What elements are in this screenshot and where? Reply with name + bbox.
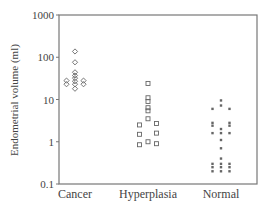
y-axis-title: Endometrial volume (ml)	[8, 44, 21, 156]
dot-marker	[211, 108, 213, 110]
square-marker	[155, 131, 159, 135]
dot-marker	[220, 104, 222, 106]
dot-marker	[211, 122, 213, 124]
dot-marker	[220, 170, 222, 172]
plot-border	[59, 15, 257, 184]
square-marker	[155, 122, 159, 126]
y-tick-label: 0.1	[40, 178, 54, 190]
dot-marker	[228, 122, 230, 124]
dot-marker	[211, 163, 213, 165]
square-marker	[138, 132, 142, 136]
dot-marker	[228, 166, 230, 168]
square-marker	[138, 143, 142, 147]
x-category-label: Hyperplasia	[119, 187, 178, 201]
series-normal	[211, 99, 230, 172]
dot-marker	[211, 166, 213, 168]
dot-marker	[220, 163, 222, 165]
series-cancer	[64, 49, 86, 91]
chart-canvas: Endometrial volume (ml) 10001001010.1 Ca…	[0, 0, 272, 209]
series-hyperplasia	[138, 81, 159, 146]
dot-marker	[211, 170, 213, 172]
y-axis-title-text: Endometrial volume (ml)	[8, 44, 21, 156]
y-axis-ticks: 10001001010.1	[32, 9, 59, 190]
dot-marker	[228, 163, 230, 165]
x-axis-categories: CancerHyperplasiaNormal	[58, 187, 240, 201]
plot-frame	[59, 15, 257, 184]
dot-marker	[220, 132, 222, 134]
square-marker	[146, 140, 150, 144]
diamond-marker	[64, 82, 69, 87]
dot-marker	[211, 132, 213, 134]
dot-marker	[220, 139, 222, 141]
dot-marker	[211, 124, 213, 126]
diamond-marker	[72, 49, 77, 54]
y-tick-label: 10	[43, 94, 55, 106]
diamond-marker	[72, 60, 77, 65]
square-marker	[138, 123, 142, 127]
square-marker	[146, 81, 150, 85]
dot-marker	[220, 128, 222, 130]
dot-marker	[228, 124, 230, 126]
dot-marker	[220, 166, 222, 168]
data-points	[64, 49, 231, 173]
x-category-label: Cancer	[58, 187, 92, 201]
diamond-marker	[81, 82, 86, 87]
square-marker	[146, 117, 150, 121]
diamond-marker	[81, 78, 86, 83]
y-tick-label: 100	[38, 51, 55, 63]
y-tick-label: 1	[49, 136, 55, 148]
dot-marker	[228, 108, 230, 110]
square-marker	[155, 142, 159, 146]
dot-marker	[220, 99, 222, 101]
x-category-label: Normal	[203, 187, 240, 201]
dot-marker	[220, 157, 222, 159]
y-tick-label: 1000	[32, 9, 55, 21]
dot-marker	[228, 170, 230, 172]
diamond-marker	[64, 78, 69, 83]
dot-marker	[228, 132, 230, 134]
dot-marker	[220, 147, 222, 149]
